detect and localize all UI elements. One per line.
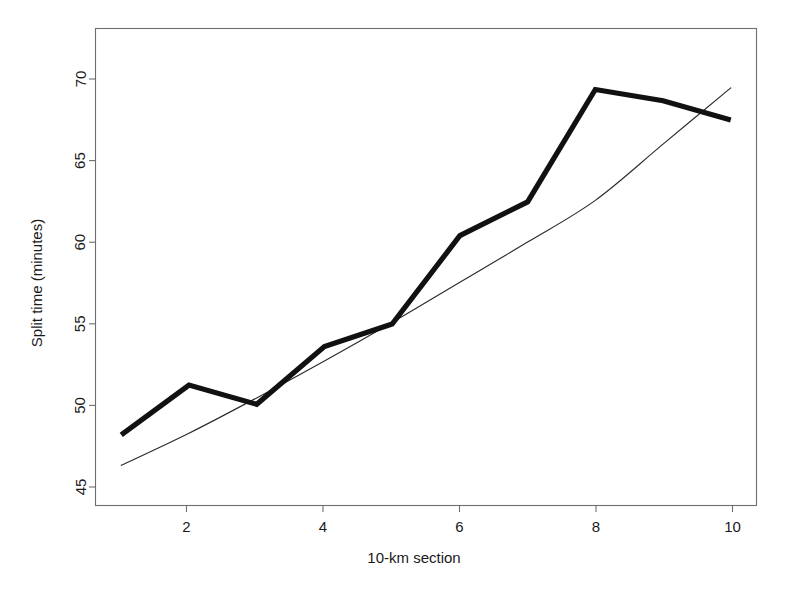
y-tick-label-45: 45	[72, 479, 89, 496]
y-tick-label-50: 50	[72, 397, 89, 414]
chart-plot-area: 45 50 55 60 65 70 2 4 6 8 10 10-km secti…	[0, 0, 791, 593]
x-tick-label-8: 8	[592, 518, 600, 535]
x-axis-title: 10-km section	[367, 549, 460, 566]
y-axis-title: Split time (minutes)	[28, 219, 45, 347]
y-tick-label-65: 65	[72, 152, 89, 169]
y-tick-label-70: 70	[72, 71, 89, 88]
chart-figure: 45 50 55 60 65 70 2 4 6 8 10 10-km secti…	[0, 0, 791, 593]
x-tick-label-10: 10	[724, 518, 741, 535]
y-tick-label-55: 55	[72, 315, 89, 332]
x-tick-label-2: 2	[182, 518, 190, 535]
y-tick-label-60: 60	[72, 234, 89, 251]
chart-background	[0, 0, 791, 593]
x-tick-label-4: 4	[319, 518, 327, 535]
x-tick-label-6: 6	[455, 518, 463, 535]
